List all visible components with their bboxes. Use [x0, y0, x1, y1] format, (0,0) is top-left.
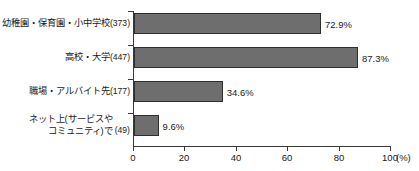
category-label: 高校・大学(447) [0, 52, 130, 63]
x-axis-tick-label: 20 [179, 152, 190, 163]
bar-row: 職場・アルバイト先(177) 34.6% [0, 81, 419, 115]
category-label: 職場・アルバイト先(177) [0, 86, 130, 97]
category-count: (447) [110, 52, 130, 62]
x-axis-tick-label: 80 [334, 152, 345, 163]
category-count: (177) [110, 86, 130, 96]
category-label: 幼稚園・保育園・小中学校(373) [0, 18, 130, 29]
bar-value-label: 9.6% [163, 121, 185, 132]
x-axis-tick-label: 0 [130, 152, 135, 163]
category-label-text: ネット上(サービスや [29, 114, 113, 126]
bar-segment [134, 13, 321, 34]
category-label-text: 幼稚園・保育園・小中学校 [2, 18, 110, 28]
category-label: ネット上(サービスや コミュニティ)で (49) [0, 114, 130, 138]
x-axis-unit-label: (%) [396, 152, 411, 163]
category-label-text: 高校・大学 [65, 52, 110, 62]
category-count: (373) [110, 18, 130, 28]
x-axis-tick-label: 40 [231, 152, 242, 163]
bar-chart: 幼稚園・保育園・小中学校(373) 72.9% 高校・大学(447) 87.3%… [0, 0, 419, 171]
bar-row: ネット上(サービスや コミュニティ)で (49) 9.6% [0, 115, 419, 149]
category-label-text: 職場・アルバイト先 [29, 86, 110, 96]
y-axis-tick [128, 11, 133, 12]
bar-value-label: 72.9% [325, 19, 352, 30]
bar-row: 高校・大学(447) 87.3% [0, 47, 419, 81]
category-label-text-line2: コミュニティ)で [29, 126, 113, 138]
bar-row: 幼稚園・保育園・小中学校(373) 72.9% [0, 13, 419, 47]
category-count: (49) [115, 114, 130, 137]
bar-segment [134, 115, 159, 136]
bar-value-label: 87.3% [362, 53, 389, 64]
plot-area: 幼稚園・保育園・小中学校(373) 72.9% 高校・大学(447) 87.3%… [0, 0, 419, 171]
bar-value-label: 34.6% [227, 87, 254, 98]
bar-segment [134, 47, 358, 68]
x-axis-tick-label: 60 [282, 152, 293, 163]
bar-segment [134, 81, 223, 102]
